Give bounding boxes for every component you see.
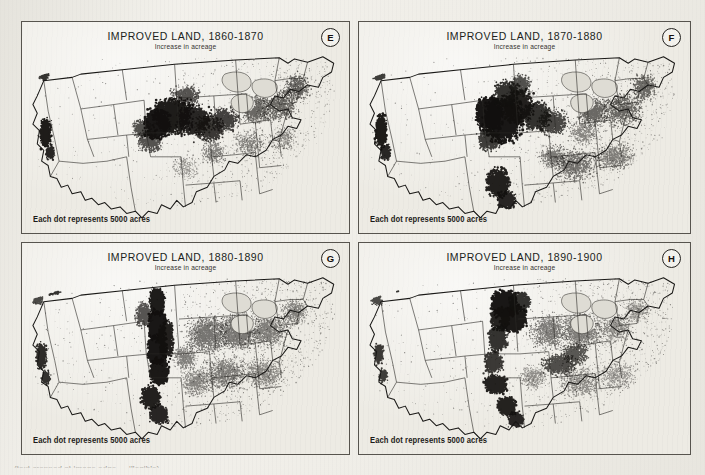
dot-cluster xyxy=(40,369,51,385)
dot-cluster xyxy=(372,74,385,81)
dot-cluster xyxy=(200,139,227,167)
map-area-e xyxy=(22,48,349,233)
state-boundary xyxy=(580,402,582,422)
panel-caption-h: Each dot represents 5000 acres xyxy=(370,436,487,445)
panel-letter-e: E xyxy=(321,28,340,47)
state-boundary xyxy=(465,378,474,432)
panel-title-f: IMPROVED LAND, 1870-1880 xyxy=(359,30,690,42)
state-boundary xyxy=(59,157,127,164)
state-boundary xyxy=(600,410,613,414)
state-boundary xyxy=(520,157,524,207)
panel-subtitle-g: Increase in acreage xyxy=(22,264,349,271)
dot-cluster xyxy=(232,129,271,158)
state-boundary xyxy=(214,404,216,424)
state-boundary xyxy=(240,181,242,201)
page-bottom-caption-text: (text cropped at image edge — illegible) xyxy=(14,464,691,473)
great-lake xyxy=(231,94,253,113)
panel-subtitle-e: Increase in acreage xyxy=(22,43,349,50)
state-boundary xyxy=(419,100,483,109)
great-lake xyxy=(592,79,618,98)
state-boundary xyxy=(525,402,580,406)
state-boundary xyxy=(410,298,432,377)
state-boundary xyxy=(388,161,397,176)
state-boundary xyxy=(452,105,456,135)
page-bottom-caption-strip: (text cropped at image edge — illegible) xyxy=(0,463,705,475)
state-boundary xyxy=(127,378,136,432)
state-boundary xyxy=(186,402,241,406)
map-area-f xyxy=(359,48,690,233)
great-lake xyxy=(231,315,253,334)
dot-cluster xyxy=(35,341,48,370)
state-boundary xyxy=(240,402,242,422)
dot-cluster xyxy=(149,404,170,425)
dot-cluster xyxy=(396,290,399,292)
great-lake xyxy=(252,79,277,98)
map-panel-f[interactable]: IMPROVED LAND, 1870-1880 Increase in acr… xyxy=(358,21,691,234)
state-boundary xyxy=(553,404,555,424)
state-boundary xyxy=(59,378,127,385)
state-boundary xyxy=(81,100,144,109)
panel-title-e: IMPROVED LAND, 1860-1870 xyxy=(22,30,349,42)
us-map-svg-g xyxy=(22,269,349,454)
state-boundary xyxy=(553,183,555,203)
dot-layer-f xyxy=(370,57,675,218)
map-area-h xyxy=(359,269,690,454)
state-boundary xyxy=(72,77,94,156)
state-boundary xyxy=(122,70,126,100)
state-boundary xyxy=(175,285,179,351)
state-boundary xyxy=(397,378,465,385)
state-boundary xyxy=(465,157,474,211)
dot-cluster xyxy=(169,154,200,181)
dot-cluster xyxy=(380,144,391,161)
panel-letter-g: G xyxy=(321,249,340,268)
panel-caption-g: Each dot represents 5000 acres xyxy=(33,436,150,445)
state-boundary xyxy=(50,161,59,176)
dot-cluster xyxy=(178,367,213,398)
dot-layer-e xyxy=(33,57,335,218)
map-panel-e[interactable]: IMPROVED LAND, 1860-1870 Increase in acr… xyxy=(21,21,350,234)
state-boundary xyxy=(122,291,126,321)
figure-four-panel-maps: IMPROVED LAND, 1860-1870 Increase in acr… xyxy=(21,21,689,453)
map-panel-g[interactable]: IMPROVED LAND, 1880-1890 Increase in acr… xyxy=(21,242,350,455)
dot-cluster xyxy=(172,344,198,373)
state-boundary xyxy=(461,70,465,100)
state-boundary xyxy=(452,326,456,356)
state-boundary xyxy=(260,166,282,168)
map-panel-h[interactable]: IMPROVED LAND, 1890-1900 Increase in acr… xyxy=(358,242,691,455)
great-lake xyxy=(252,300,277,319)
us-map-svg-h xyxy=(359,269,690,454)
panel-title-h: IMPROVED LAND, 1890-1900 xyxy=(359,251,690,263)
dot-cluster xyxy=(148,356,170,386)
great-lake xyxy=(571,94,594,113)
state-boundary xyxy=(127,135,129,157)
state-boundary xyxy=(44,302,59,383)
us-map-svg-e xyxy=(22,48,349,233)
panel-subtitle-h: Increase in acreage xyxy=(359,264,690,271)
state-boundary xyxy=(419,321,483,330)
state-boundary xyxy=(580,181,582,201)
state-boundary xyxy=(186,181,241,185)
state-boundary xyxy=(114,326,118,356)
dot-cluster xyxy=(280,298,310,329)
panel-letter-h: H xyxy=(662,249,681,268)
state-boundary xyxy=(275,299,303,301)
state-boundary xyxy=(260,410,273,414)
state-boundary xyxy=(461,291,465,321)
state-boundary xyxy=(525,181,580,185)
us-map-svg-f xyxy=(359,48,690,233)
great-lake xyxy=(592,300,618,319)
map-area-g xyxy=(22,269,349,454)
panel-title-g: IMPROVED LAND, 1880-1890 xyxy=(22,251,349,263)
state-boundary xyxy=(303,283,307,306)
state-boundary xyxy=(388,382,397,397)
state-boundary xyxy=(127,356,129,378)
great-lake xyxy=(571,315,594,334)
panel-caption-f: Each dot represents 5000 acres xyxy=(370,215,487,224)
state-boundary xyxy=(127,157,136,211)
state-boundary xyxy=(275,279,279,326)
dot-cluster xyxy=(267,125,302,153)
state-boundary xyxy=(465,356,467,378)
state-boundary xyxy=(425,354,489,361)
state-boundary xyxy=(615,78,644,80)
dot-cluster xyxy=(49,291,62,296)
